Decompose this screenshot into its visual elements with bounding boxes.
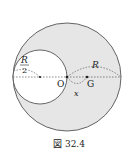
center-point-o — [66, 76, 69, 79]
centroid-point-g — [86, 76, 89, 79]
small-radius-numerator: R — [20, 55, 28, 65]
figure-diagram: R 2 R O G x 図 32.4 — [0, 0, 138, 153]
big-radius-label: R — [91, 60, 99, 70]
small-center-point — [39, 76, 41, 78]
centroid-label-g: G — [87, 79, 94, 89]
small-radius-denominator: 2 — [22, 66, 27, 75]
offset-label-x: x — [74, 89, 79, 98]
center-label-o: O — [57, 79, 64, 89]
figure-caption: 図 32.4 — [53, 139, 85, 149]
